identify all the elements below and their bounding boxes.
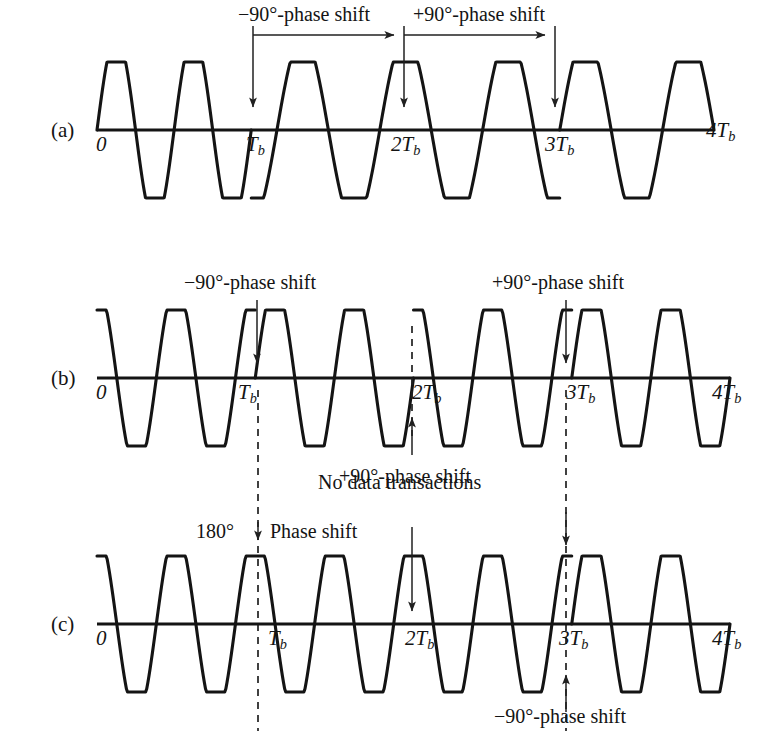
panel-c-tick-2tb: 2Tb xyxy=(405,628,434,651)
panel-b-tick-3tb: 3Tb xyxy=(566,382,595,405)
panel-b-graphics xyxy=(97,300,730,731)
panel-c-tag: (c) xyxy=(51,614,74,635)
panel-c-tick-tb: Tb xyxy=(268,628,287,651)
panel-b-tag: (b) xyxy=(51,368,76,389)
panel-a-tick-3tb: 3Tb xyxy=(545,134,574,157)
waveform-canvas xyxy=(0,0,772,731)
panel-a-annotation-plus90: +90°-phase shift xyxy=(413,4,545,24)
panel-a-tick-4tb: 4Tb xyxy=(706,120,735,143)
panel-b-tick-2tb: 2Tb xyxy=(412,382,441,405)
panel-b-tick-4tb: 4Tb xyxy=(712,382,741,405)
panel-a-graphics xyxy=(97,26,714,198)
panel-c-annotation-180-text: Phase shift xyxy=(270,521,357,541)
panel-c-tick-0: 0 xyxy=(96,628,107,649)
panel-a-annotation-minus90: −90°-phase shift xyxy=(238,4,370,24)
panel-a-tick-0: 0 xyxy=(96,134,107,155)
panel-c-graphics xyxy=(97,512,730,712)
panel-a-tick-2tb: 2Tb xyxy=(391,134,420,157)
psk-waveform-figure: (a) −90°-phase shift +90°-phase shift 0 … xyxy=(0,0,772,731)
panel-c-tick-4tb: 4Tb xyxy=(712,628,741,651)
panel-c-annotation-no-data: No data transactions xyxy=(318,472,481,492)
panel-b-annotation-minus90: −90°-phase shift xyxy=(184,272,316,292)
panel-b-annotation-plus90-3tb: +90°-phase shift xyxy=(492,272,624,292)
panel-c-annotation-180-value: 180° xyxy=(196,521,234,541)
panel-c-tick-3tb: 3Tb xyxy=(559,628,588,651)
panel-a-tick-tb: Tb xyxy=(246,134,265,157)
panel-b-tick-tb: Tb xyxy=(238,382,257,405)
panel-a-tag: (a) xyxy=(51,120,74,141)
panel-b-tick-0: 0 xyxy=(96,382,107,403)
panel-c-annotation-minus90: −90°-phase shift xyxy=(494,706,626,726)
